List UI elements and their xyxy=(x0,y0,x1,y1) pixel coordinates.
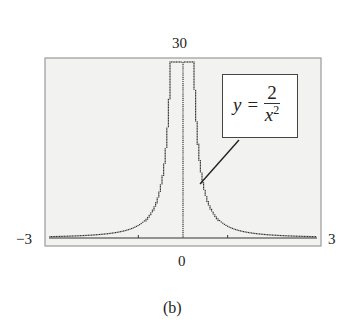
x-min-label: −3 xyxy=(16,232,32,247)
equals-sign: = xyxy=(247,94,258,116)
equation: y = 2 x2 xyxy=(233,83,280,126)
x-max-label: 3 xyxy=(328,232,336,247)
den-exponent: 2 xyxy=(273,103,279,117)
equation-label-box: y = 2 x2 xyxy=(222,74,298,138)
fraction: 2 x2 xyxy=(264,83,280,126)
y-min-label: 0 xyxy=(178,254,186,269)
den-base: x xyxy=(265,104,273,125)
denominator: x2 xyxy=(265,104,279,126)
numerator: 2 xyxy=(264,83,280,104)
y-max-label: 30 xyxy=(172,36,187,51)
equation-lhs: y xyxy=(233,94,241,116)
figure-caption: (b) xyxy=(163,300,182,316)
